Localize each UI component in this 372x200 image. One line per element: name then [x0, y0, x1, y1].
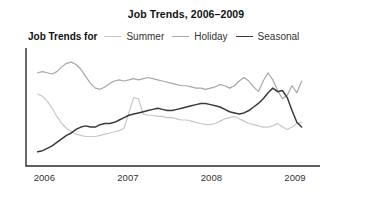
x-tick-label-2007: 2007 [106, 172, 150, 183]
x-tick-label-2009: 2009 [273, 172, 317, 183]
series-line-holiday [38, 62, 302, 99]
plot-area [0, 0, 372, 200]
x-tick-label-2008: 2008 [189, 172, 233, 183]
job-trends-chart: Job Trends, 2006–2009 Job Trends for Sum… [0, 0, 372, 200]
series-group [38, 62, 302, 152]
x-tick-label-2006: 2006 [22, 172, 66, 183]
chart-axes [26, 48, 320, 166]
series-line-seasonal [38, 88, 302, 152]
